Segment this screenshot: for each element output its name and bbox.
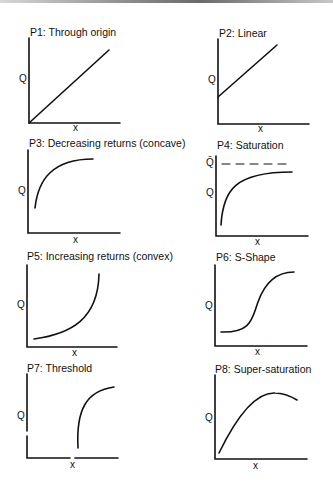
- p1-title: P1: Through origin: [30, 27, 116, 38]
- p7-axes: [27, 374, 118, 458]
- p7-xlabel: x: [70, 460, 75, 470]
- p6-xlabel: x: [255, 347, 260, 357]
- p2-ylabel: Q: [208, 75, 216, 85]
- panel-p2-graph: [218, 39, 309, 124]
- p1-curve: [29, 50, 109, 123]
- p5-ylabel: Q: [17, 300, 25, 310]
- p4-title: P4: Saturation: [217, 140, 284, 151]
- panel-p4-graph: [216, 156, 308, 236]
- p6-axes: [215, 265, 307, 346]
- p5-curve: [34, 274, 99, 339]
- p6-curve: [221, 272, 294, 332]
- p7-ylabel: Q: [17, 411, 25, 421]
- p4-curve: [221, 172, 292, 225]
- panel-p5-graph: [27, 265, 117, 347]
- p8-curve: [219, 393, 297, 453]
- p3-axes: [28, 150, 120, 233]
- p7-curve: [78, 387, 114, 448]
- p5-axes: [27, 265, 117, 347]
- p8-title: P8: Super-saturation: [215, 364, 311, 375]
- panel-p6-graph: [215, 265, 307, 346]
- panel-p8-graph: [215, 375, 307, 459]
- plots-canvas: [0, 0, 333, 490]
- p2-axes: [218, 39, 309, 124]
- p7-title: P7: Threshold: [27, 363, 92, 374]
- p3-ylabel: Q: [18, 186, 26, 196]
- p6-title: P6: S-Shape: [216, 252, 276, 263]
- p1-ylabel: Q: [19, 74, 27, 84]
- p1-xlabel: x: [73, 123, 78, 133]
- panel-p3-graph: [28, 150, 120, 233]
- p2-xlabel: x: [258, 124, 263, 134]
- p4-ylabel: Q: [206, 188, 214, 198]
- panel-p7-graph: [27, 374, 118, 458]
- p6-ylabel: Q: [205, 301, 213, 311]
- p8-ylabel: Q: [205, 413, 213, 423]
- p4-xlabel: x: [255, 237, 260, 247]
- p8-axes: [215, 375, 307, 459]
- p3-xlabel: x: [73, 235, 78, 245]
- p5-xlabel: x: [72, 348, 77, 358]
- panel-p1-graph: [29, 38, 120, 123]
- p3-curve: [35, 159, 93, 208]
- p5-title: P5: Increasing returns (convex): [27, 251, 173, 262]
- p8-xlabel: x: [253, 461, 258, 471]
- p2-title: P2: Linear: [219, 28, 267, 39]
- p4-ylabel-upper: Q̄: [206, 158, 214, 168]
- p2-curve: [218, 45, 277, 97]
- p3-title: P3: Decreasing returns (concave): [29, 138, 185, 149]
- p4-axes: [216, 156, 308, 236]
